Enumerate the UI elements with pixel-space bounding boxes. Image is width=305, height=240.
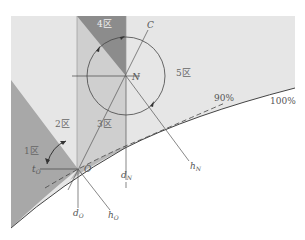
zone-2-label: 2区 [55,119,70,129]
point-C-label: C [147,20,154,30]
curve-100-label: 100% [270,96,296,106]
line-dN-label: dN [121,170,133,181]
line-hO-label: hO [108,210,119,221]
point-O-label: O [84,164,92,174]
zone-diagram: 4区 5区 2区 3区 1区 C N O 90% 100% dN dO hO h… [0,0,305,240]
curve-90-label: 90% [214,93,234,103]
line-hO [78,169,110,210]
zone-1-label: 1区 [24,146,39,156]
zone-4-label: 4区 [97,19,112,29]
zone-3-label: 3区 [97,119,112,129]
point-N-label: N [131,72,141,82]
line-dO-label: dO [73,208,84,219]
zone-5-label: 5区 [176,68,191,78]
line-hN-label: hN [190,161,202,172]
